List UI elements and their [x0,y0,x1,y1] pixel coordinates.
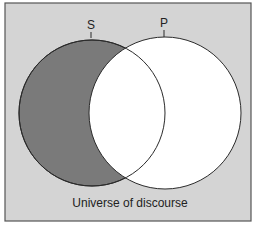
s-label: S [87,18,95,32]
p-label: P [160,16,168,30]
universe-caption: Universe of discourse [72,196,188,210]
venn-diagram: S P Universe of discourse [0,0,257,225]
